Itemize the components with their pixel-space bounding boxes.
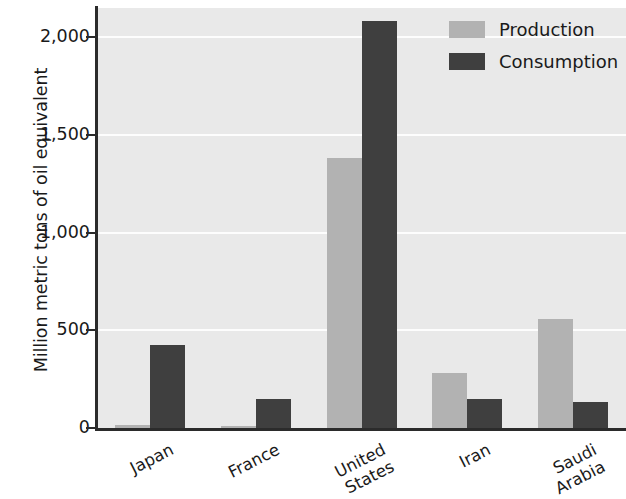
legend-swatch-production <box>449 21 485 38</box>
y-tick-label: 2,000 <box>22 28 90 46</box>
legend: ProductionConsumption <box>449 18 626 76</box>
bar-chart-figure: Million metric tons of oil equivalent 05… <box>0 0 626 499</box>
y-tick-label: 500 <box>22 321 90 339</box>
bar-iran-production <box>432 373 467 428</box>
y-tick-mark <box>86 427 95 429</box>
bar-iran-consumption <box>467 399 502 428</box>
x-axis-ticks: JapanFranceUnitedStatesIranSaudiArabia <box>0 430 626 499</box>
y-tick-label: 1,000 <box>22 224 90 242</box>
y-tick-mark <box>86 36 95 38</box>
x-tick-label-line: Arabia <box>466 457 608 499</box>
bar-united-states-consumption <box>362 21 397 428</box>
y-tick-mark <box>86 232 95 234</box>
legend-label-consumption: Consumption <box>499 50 618 73</box>
y-axis-line <box>95 6 98 430</box>
legend-swatch-consumption <box>449 53 485 70</box>
bar-japan-consumption <box>150 345 185 428</box>
bar-united-states-production <box>327 158 362 428</box>
x-tick-label-japan: Japan <box>34 440 176 499</box>
y-tick-label: 1,500 <box>22 126 90 144</box>
y-tick-mark <box>86 329 95 331</box>
x-tick-label-line: Japan <box>127 440 177 478</box>
x-tick-label-line: States <box>254 457 396 499</box>
y-tick-mark <box>86 134 95 136</box>
legend-label-production: Production <box>499 18 595 41</box>
x-tick-label-line: France <box>225 440 283 482</box>
bar-saudi-arabia-consumption <box>573 402 608 428</box>
bar-france-consumption <box>256 399 291 428</box>
y-axis-ticks: 05001,0001,5002,000 <box>0 0 90 499</box>
bar-saudi-arabia-production <box>538 319 573 428</box>
x-tick-label-line: Iran <box>457 440 494 472</box>
